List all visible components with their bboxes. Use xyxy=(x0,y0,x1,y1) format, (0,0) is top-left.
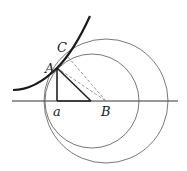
label-B: B xyxy=(100,104,111,119)
label-A: A xyxy=(44,61,54,76)
normal-segment-A-N xyxy=(57,68,91,101)
geometry-figure: C A a B xyxy=(0,0,187,171)
dashed-line-C-B xyxy=(68,57,106,101)
diagram-canvas: C A a B xyxy=(0,0,187,171)
label-a: a xyxy=(53,104,61,119)
curve xyxy=(13,16,90,90)
label-C: C xyxy=(57,40,67,55)
